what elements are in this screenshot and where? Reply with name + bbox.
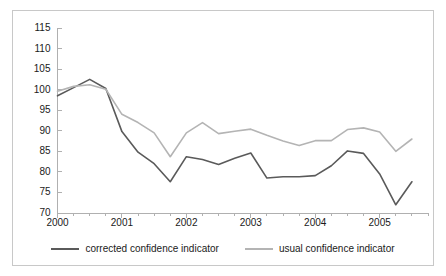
x-tick-label: 2003: [231, 218, 271, 228]
y-tick-label: 110: [25, 44, 51, 54]
y-tick-label: 95: [25, 105, 51, 115]
series-line-1: [58, 85, 412, 157]
y-tick-label: 115: [25, 23, 51, 33]
y-tick-label: 85: [25, 146, 51, 156]
y-tick-label: 75: [25, 187, 51, 197]
legend-label: corrected confidence indicator: [85, 243, 218, 254]
legend-label: usual confidence indicator: [279, 243, 395, 254]
axis-layer: [58, 28, 429, 218]
y-tick-label: 90: [25, 126, 51, 136]
chart-legend: corrected confidence indicatorusual conf…: [12, 243, 434, 254]
legend-swatch-icon: [245, 248, 273, 250]
legend-swatch-icon: [51, 248, 79, 250]
y-tick-label: 80: [25, 167, 51, 177]
series-layer: [58, 79, 412, 204]
x-tick-label: 2004: [295, 218, 335, 228]
x-tick-label: 2001: [102, 218, 142, 228]
y-tick-label: 105: [25, 64, 51, 74]
plot-area: 115110105100959085807570 200020012002200…: [0, 0, 446, 276]
x-tick-label: 2002: [166, 218, 206, 228]
x-tick-label: 2005: [360, 218, 400, 228]
x-tick-label: 2000: [38, 218, 78, 228]
chart-svg: [0, 0, 446, 276]
legend-entry-0[interactable]: corrected confidence indicator: [51, 243, 218, 254]
legend-entry-1[interactable]: usual confidence indicator: [245, 243, 395, 254]
y-tick-label: 100: [25, 85, 51, 95]
chart-figure: 115110105100959085807570 200020012002200…: [0, 0, 446, 276]
